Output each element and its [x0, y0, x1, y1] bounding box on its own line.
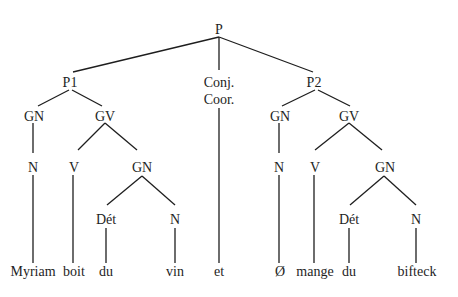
node-conj-line2: Coor. [204, 92, 235, 107]
node-p: P [215, 22, 223, 37]
syntax-tree-diagram: P P1 Conj. Coor. P2 GN GV GN GV N V GN N… [0, 0, 458, 297]
node-p1-inner-gn: GN [132, 160, 152, 175]
node-p2-gn: GN [270, 109, 290, 124]
tree-canvas: P P1 Conj. Coor. P2 GN GV GN GV N V GN N… [0, 0, 458, 297]
tree-edges [33, 37, 416, 263]
node-p2-inner-n: N [411, 212, 421, 227]
word-myriam: Myriam [10, 264, 55, 279]
node-p2-det: Dét [339, 212, 359, 227]
word-boit: boit [63, 264, 85, 279]
node-p1-v: V [69, 160, 79, 175]
node-p2-n: N [274, 160, 284, 175]
tree-nodes: P P1 Conj. Coor. P2 GN GV GN GV N V GN N… [24, 22, 421, 227]
node-p2-inner-gn: GN [375, 160, 395, 175]
word-bifteck: bifteck [398, 264, 437, 279]
node-p2-v: V [310, 160, 320, 175]
node-p2-gv: GV [339, 109, 359, 124]
node-p1-gv: GV [95, 109, 115, 124]
node-conj-line1: Conj. [204, 75, 235, 90]
node-p1: P1 [63, 75, 78, 90]
node-p1-inner-n: N [170, 212, 180, 227]
word-du-2: du [342, 264, 356, 279]
node-p2: P2 [307, 75, 322, 90]
word-vin: vin [166, 264, 184, 279]
node-p1-gn: GN [24, 109, 44, 124]
node-p1-det: Dét [96, 212, 116, 227]
node-p1-n: N [28, 160, 38, 175]
word-mange: mange [296, 264, 333, 279]
word-et: et [214, 264, 224, 279]
word-du-1: du [99, 264, 113, 279]
tree-words: Myriam boit du vin et Ø mange du bifteck [10, 264, 436, 279]
word-empty-subject: Ø [275, 264, 285, 279]
